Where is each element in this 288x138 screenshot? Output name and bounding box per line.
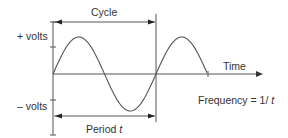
period-arrowhead-right bbox=[148, 114, 155, 119]
period-arrowhead-left bbox=[55, 114, 62, 119]
period-text: Period bbox=[86, 123, 119, 135]
frequency-text: Frequency = 1/ bbox=[198, 94, 271, 106]
cycle-label: Cycle bbox=[91, 6, 117, 18]
cycle-arrowhead-right bbox=[148, 20, 155, 25]
minus-volts-label: – volts bbox=[17, 100, 47, 112]
frequency-variable: t bbox=[271, 94, 275, 106]
frequency-label: Frequency = 1/ t bbox=[198, 94, 275, 106]
sine-wave-diagram: Cycle + volts – volts Time Period t Freq… bbox=[0, 0, 288, 138]
plus-volts-label: + volts bbox=[17, 30, 48, 42]
time-label: Time bbox=[223, 60, 246, 72]
cycle-arrowhead-left bbox=[55, 20, 62, 25]
time-axis-arrowhead bbox=[256, 71, 263, 77]
period-label: Period t bbox=[86, 123, 123, 135]
period-variable: t bbox=[119, 123, 123, 135]
